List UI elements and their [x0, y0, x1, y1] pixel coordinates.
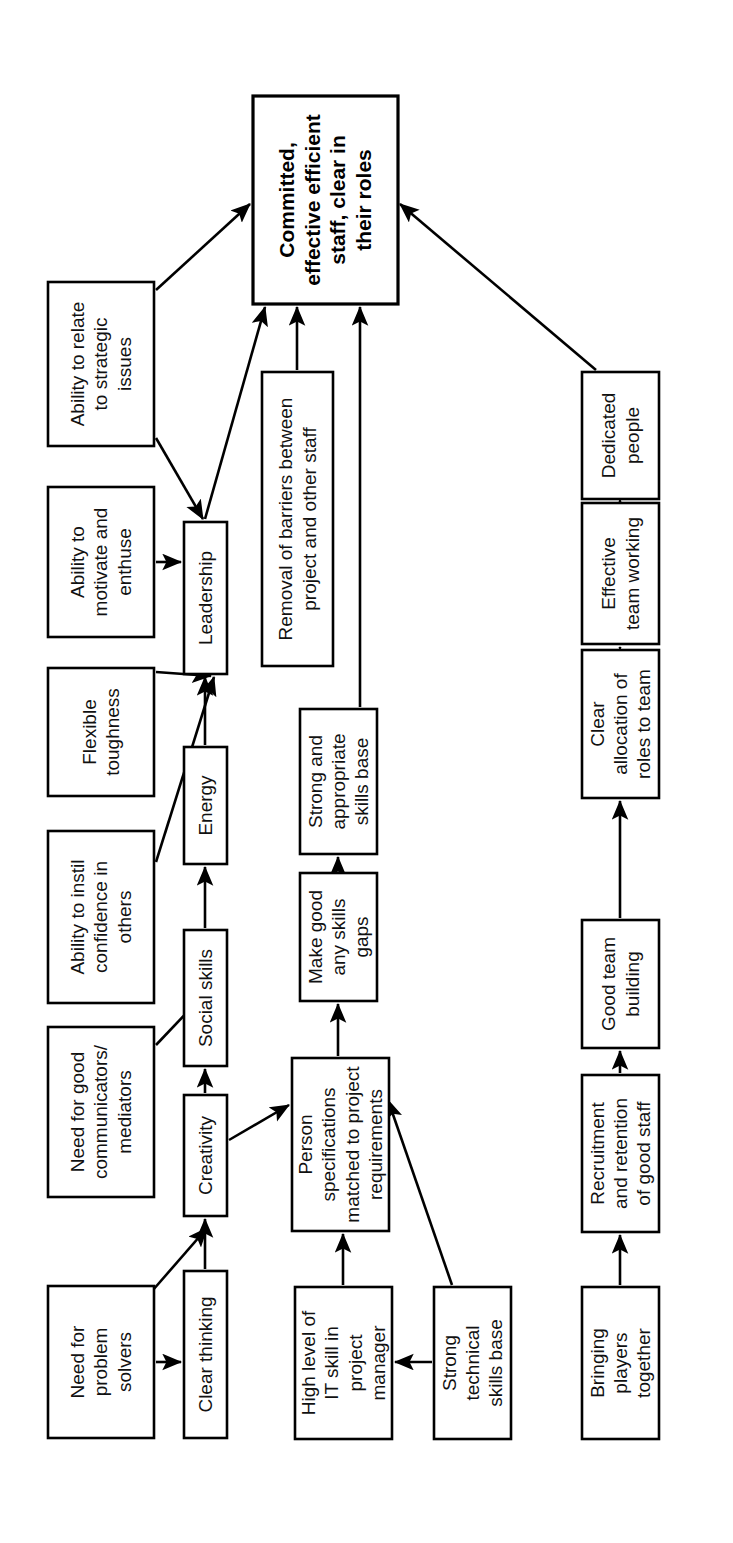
- node-personspec[interactable]: Personspecificationsmatched to projectre…: [292, 1058, 389, 1231]
- node-label-line: matched to project: [342, 1066, 363, 1223]
- edge-creativity-to-personspec: [229, 1105, 289, 1140]
- node-label-line: Energy: [195, 775, 216, 836]
- node-label-line: issues: [114, 337, 135, 391]
- node-label-line: allocation of: [610, 673, 631, 775]
- node-label-line: Person: [295, 1114, 316, 1174]
- node-label-line: Good team: [598, 937, 619, 1031]
- node-label-line: Bringing: [587, 1328, 608, 1398]
- node-label-line: appropriate: [328, 733, 349, 829]
- node-label-line: problem: [90, 1328, 111, 1397]
- node-label-line: specifications: [318, 1087, 339, 1201]
- node-label-strongbase: Strong andappropriateskills base: [305, 733, 372, 829]
- node-label-line: Ability to relate: [67, 302, 88, 427]
- node-label-line: people: [622, 407, 643, 464]
- node-label-line: Dedicated: [598, 393, 619, 479]
- node-instil[interactable]: Ability to instilconfidence inothers: [48, 831, 154, 1003]
- node-label-line: Recruitment: [587, 1102, 608, 1205]
- node-label-line: Need for: [67, 1325, 88, 1399]
- node-label-clearthink: Clear thinking: [195, 1296, 216, 1412]
- node-label-social: Social skills: [195, 949, 216, 1047]
- node-label-line: their roles: [352, 149, 375, 251]
- node-leadership[interactable]: Leadership: [184, 522, 227, 674]
- node-label-line: technical: [462, 1326, 483, 1401]
- node-label-line: solvers: [114, 1332, 135, 1392]
- node-label-line: of good staff: [633, 1101, 654, 1206]
- node-itskill[interactable]: High level ofIT skill inprojectmanager: [295, 1287, 392, 1439]
- node-label-creativity: Creativity: [195, 1115, 216, 1195]
- edge-leadership-to-goal: [205, 307, 265, 519]
- node-label-line: Creativity: [195, 1115, 216, 1195]
- node-social[interactable]: Social skills: [184, 930, 227, 1066]
- node-label-line: toughness: [102, 688, 123, 776]
- node-label-line: players: [610, 1332, 631, 1393]
- node-label-line: Need for good: [67, 1052, 88, 1172]
- node-label-line: motivate and: [90, 508, 111, 617]
- node-box-removal: [262, 372, 333, 666]
- node-label-line: Ability to instil: [67, 859, 88, 974]
- node-label-line: skills base: [485, 1319, 506, 1407]
- node-label-line: Clear: [587, 701, 608, 747]
- node-box-dedicated: [582, 372, 659, 499]
- edge-relate-to-goal: [156, 204, 250, 290]
- node-label-leadership: Leadership: [195, 551, 216, 645]
- node-label-line: confidence in: [90, 861, 111, 973]
- node-label-line: project and other staff: [299, 427, 320, 611]
- node-label-line: Make good: [305, 890, 326, 984]
- node-problem[interactable]: Need forproblemsolvers: [48, 1286, 154, 1438]
- node-label-line: Removal of barriers between: [275, 398, 296, 641]
- node-label-line: requirements: [365, 1089, 386, 1200]
- node-label-line: skills base: [351, 738, 372, 826]
- nodes-layer: Committed,effective efficientstaff, clea…: [48, 96, 659, 1439]
- node-label-line: project: [345, 1334, 366, 1392]
- node-label-line: gaps: [351, 916, 372, 957]
- edge-dedicated-to-goal: [400, 204, 596, 370]
- node-label-energy: Energy: [195, 775, 216, 836]
- node-label-line: Social skills: [195, 949, 216, 1047]
- influence-diagram: Committed,effective efficientstaff, clea…: [0, 0, 733, 1543]
- node-label-line: Effective: [598, 537, 619, 610]
- node-label-line: enthuse: [114, 528, 135, 596]
- node-label-line: Ability to: [67, 526, 88, 598]
- node-label-line: High level of: [298, 1310, 319, 1415]
- node-motivate[interactable]: Ability tomotivate andenthuse: [48, 487, 154, 637]
- node-label-line: mediators: [114, 1070, 135, 1153]
- node-label-line: building: [622, 951, 643, 1017]
- node-bringing[interactable]: Bringingplayerstogether: [582, 1287, 659, 1439]
- node-recruit[interactable]: Recruitmentand retentionof good staff: [582, 1075, 659, 1232]
- node-teambuild[interactable]: Good teambuilding: [582, 920, 659, 1048]
- node-strongbase[interactable]: Strong andappropriateskills base: [300, 709, 377, 854]
- node-label-line: IT skill in: [321, 1326, 342, 1400]
- node-label-bringing: Bringingplayerstogether: [587, 1327, 654, 1397]
- node-label-line: roles to team: [633, 669, 654, 779]
- node-energy[interactable]: Energy: [184, 747, 227, 864]
- node-box-teamwork: [582, 503, 659, 644]
- node-label-line: Committed,: [275, 142, 298, 258]
- node-label-line: team working: [622, 517, 643, 630]
- edge-relate-to-leadership: [156, 438, 203, 519]
- node-relate[interactable]: Ability to relateto strategicissues: [48, 282, 154, 446]
- node-flexible[interactable]: Flexibletoughness: [48, 668, 154, 796]
- node-techbase[interactable]: Strongtechnicalskills base: [434, 1287, 511, 1439]
- node-allocation[interactable]: Clearallocation ofroles to team: [582, 650, 659, 798]
- node-removal[interactable]: Removal of barriers betweenproject and o…: [262, 372, 333, 666]
- node-label-recruit: Recruitmentand retentionof good staff: [587, 1098, 654, 1209]
- node-box-flexible: [48, 668, 154, 796]
- node-label-line: Strong and: [305, 735, 326, 828]
- node-clearthink[interactable]: Clear thinking: [184, 1271, 227, 1438]
- node-label-line: any skills: [328, 898, 349, 975]
- node-label-line: communicators/: [90, 1044, 111, 1179]
- node-label-line: others: [114, 891, 135, 944]
- node-teamwork[interactable]: Effectiveteam working: [582, 503, 659, 644]
- node-label-line: Strong: [439, 1335, 460, 1391]
- node-label-line: manager: [368, 1325, 389, 1401]
- node-label-line: Clear thinking: [195, 1296, 216, 1412]
- node-label-line: Leadership: [195, 551, 216, 645]
- edge-techbase-to-personspec: [388, 1100, 452, 1285]
- node-makegood[interactable]: Make goodany skillsgaps: [300, 873, 377, 1001]
- node-label-line: effective efficient: [301, 114, 324, 286]
- node-label-problem: Need forproblemsolvers: [67, 1325, 134, 1399]
- node-goal[interactable]: Committed,effective efficientstaff, clea…: [253, 96, 398, 304]
- node-communic[interactable]: Need for goodcommunicators/mediators: [48, 1027, 154, 1197]
- node-dedicated[interactable]: Dedicatedpeople: [582, 372, 659, 499]
- node-creativity[interactable]: Creativity: [184, 1095, 227, 1216]
